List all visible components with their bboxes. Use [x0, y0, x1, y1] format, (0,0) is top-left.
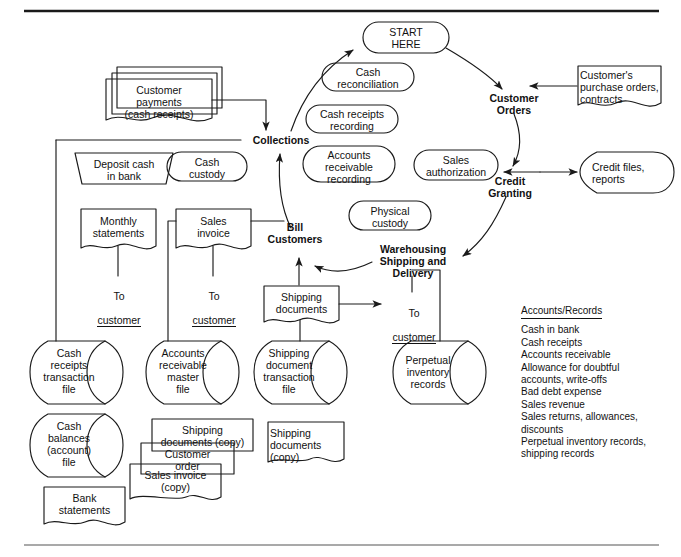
cash-balances-account-file-fold: [87, 414, 105, 477]
shipping-documents-copy-mid-doc: [152, 419, 253, 451]
connector-customer-payments-to-collections: [212, 100, 266, 130]
arrow-start-to-customer-orders: [446, 48, 502, 89]
cash-custody-shape: [167, 152, 247, 181]
accounts-records-item: Perpetual inventory records, shipping re…: [521, 436, 676, 461]
accounts-records-item: Allowance for doubtful accounts, write-o…: [521, 362, 676, 387]
cash-receipts-transaction-file-fold: [87, 341, 105, 404]
accounts-records-item: Bad debt expense: [521, 386, 676, 398]
arrow-customer-orders-to-credit-granting: [513, 114, 520, 166]
accounts-receivable-master-file-shape: [146, 341, 239, 404]
physical-custody-shape: [349, 201, 431, 230]
flowchart-canvas: START HERE Customer Orders Credit Granti…: [0, 0, 681, 557]
customers-purchase-orders-doc: [578, 66, 661, 106]
cash-balances-account-file-shape: [30, 414, 123, 477]
arrow-bill-customers-to-collections: [279, 154, 291, 228]
connector-sales-invoice-rail: [168, 221, 176, 341]
shipping-document-transaction-file-shape: [254, 341, 347, 404]
perpetual-inventory-records-shape: [393, 341, 486, 404]
shipping-documents-copy-right-doc: [268, 422, 344, 462]
accounts-records-title: Accounts/Records: [521, 305, 602, 319]
cash-receipts-transaction-file-shape: [30, 341, 123, 404]
monthly-statements-doc: [81, 209, 156, 249]
bank-statements-doc: [44, 487, 125, 525]
connector-warehousing-to-perpetual-inventory: [412, 270, 440, 341]
accounts-receivable-recording-shape: [303, 146, 395, 182]
accounts-records-item: Sales revenue: [521, 399, 676, 411]
accounts-records-item: Sales returns, allowances, discounts: [521, 411, 676, 436]
deposit-cash-trapezoid: [75, 153, 173, 184]
accounts-records-item: Accounts receivable: [521, 349, 676, 361]
flowchart-svg: [0, 0, 681, 557]
start-here-shape: [363, 22, 449, 53]
accounts-records-list: Accounts/Records Cash in bank Cash recei…: [521, 305, 676, 461]
shipping-documents-doc: [264, 286, 339, 323]
perpetual-inventory-records-fold: [450, 341, 468, 404]
accounts-records-item: Cash receipts: [521, 337, 676, 349]
sales-authorization-shape: [414, 150, 498, 180]
sales-invoice-copy-doc: [130, 464, 221, 500]
customer-order-copy-doc: [141, 443, 234, 474]
accounts-receivable-master-file-fold: [203, 341, 221, 404]
sales-invoice-doc: [176, 209, 251, 249]
arrow-warehousing-to-bill-customers: [315, 262, 372, 271]
credit-files-reports-shape: [580, 152, 674, 193]
arrow-credit-granting-to-warehousing: [463, 197, 506, 256]
cash-receipts-recording-shape: [306, 105, 398, 133]
cash-reconciliation-shape: [322, 63, 414, 91]
customer-payments-doc-front: [106, 79, 212, 121]
shipping-document-transaction-file-fold: [311, 341, 329, 404]
accounts-records-item: Cash in bank: [521, 324, 676, 336]
